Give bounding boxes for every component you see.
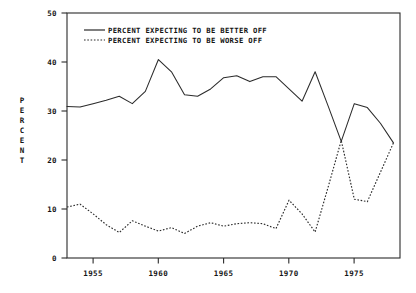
y-axis-label: P E R C E N T: [20, 96, 25, 165]
y-tick-label: 30: [47, 107, 57, 116]
y-axis-label-letter: E: [20, 106, 25, 115]
y-axis-label-letter: E: [20, 136, 25, 145]
legend-label-worse-off: PERCENT EXPECTING TO BE WORSE OFF: [108, 36, 262, 45]
legend-label-better-off: PERCENT EXPECTING TO BE BETTER OFF: [108, 26, 267, 35]
x-tick-label: 1960: [148, 269, 168, 278]
x-tick-label: 1955: [83, 269, 103, 278]
percent-expectations-line-chart: 50 40 30 20 10 0 P E R C E N T 1955 1960…: [0, 0, 416, 293]
y-axis-label-letter: C: [20, 126, 25, 135]
y-axis-label-letter: R: [20, 116, 25, 125]
y-tick-label: 0: [52, 254, 57, 263]
x-tick-label: 1965: [214, 269, 234, 278]
y-tick-label: 10: [47, 205, 57, 214]
y-tick-label: 20: [47, 156, 57, 165]
chart-legend: PERCENT EXPECTING TO BE BETTER OFF PERCE…: [84, 26, 267, 45]
y-axis-label-letter: T: [20, 156, 25, 165]
y-tick-label: 50: [47, 9, 57, 18]
y-axis-label-letter: N: [20, 146, 25, 155]
y-axis-label-letter: P: [20, 96, 25, 105]
x-tick-label: 1970: [279, 269, 299, 278]
x-tick-label: 1975: [344, 269, 364, 278]
y-tick-label: 40: [47, 58, 57, 67]
